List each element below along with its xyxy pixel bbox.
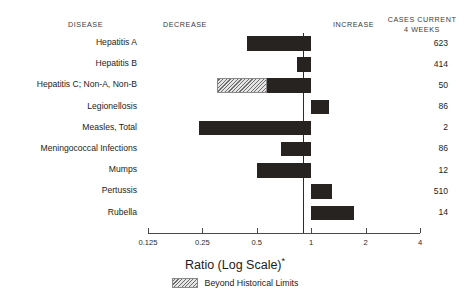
legend-hatch-label: Beyond Historical Limits: [205, 278, 299, 288]
chart-rows: Hepatitis A623Hepatitis B414Hepatitis C;…: [0, 33, 470, 224]
cases-current-4-weeks-value: 623: [378, 38, 448, 48]
x-axis-title-text: Ratio (Log Scale): [185, 258, 282, 272]
legend-hatch-swatch-icon: [172, 278, 198, 288]
cases-current-4-weeks-value: 510: [378, 186, 448, 196]
bar-segment-solid: [267, 78, 311, 93]
bar-segment-beyond-historical-limits: [217, 78, 267, 93]
bar-segment-solid: [247, 36, 311, 51]
bar-segment-solid: [311, 100, 329, 115]
x-axis-tick-label: 0.25: [195, 238, 210, 247]
x-axis-tick-label: 0.125: [138, 238, 157, 247]
cases-current-4-weeks-value: 14: [378, 207, 448, 217]
chart-row: Hepatitis C; Non-A, Non-B50: [0, 75, 470, 96]
x-axis-tick-label: 0.5: [252, 238, 263, 247]
cases-current-4-weeks-value: 12: [378, 165, 448, 175]
bar-segment-solid: [281, 142, 311, 157]
column-header-decrease: DECREASE: [163, 20, 207, 29]
column-header-cases-current-4-weeks: CASES CURRENT 4 WEEKS: [378, 15, 466, 34]
cases-current-4-weeks-value: 2: [378, 122, 448, 132]
x-axis-tick-label: 4: [418, 238, 422, 247]
x-axis-tick-label: 1: [309, 238, 313, 247]
bar-segment-solid: [311, 206, 354, 221]
x-axis-tick: [420, 228, 421, 233]
x-axis-title-footnote-marker: *: [282, 256, 286, 266]
chart-row: Hepatitis B414: [0, 54, 470, 75]
x-axis-tick: [366, 228, 367, 233]
bar-segment-solid: [297, 57, 312, 72]
x-axis-tick: [257, 228, 258, 233]
column-header-increase: INCREASE: [333, 20, 374, 29]
x-axis-tick: [311, 228, 312, 233]
x-axis-tick: [202, 228, 203, 233]
chart-row: Legionellosis86: [0, 97, 470, 118]
x-axis-tick-label: 2: [363, 238, 367, 247]
cases-current-4-weeks-value: 414: [378, 59, 448, 69]
notifiable-disease-ratio-chart: DISEASE DECREASE INCREASE CASES CURRENT …: [0, 0, 470, 303]
column-header-cases-line-1: CASES CURRENT: [388, 15, 457, 24]
chart-row: Pertussis510: [0, 181, 470, 202]
bar-segment-solid: [257, 163, 311, 178]
cases-current-4-weeks-value: 50: [378, 80, 448, 90]
chart-legend: Beyond Historical Limits: [0, 278, 470, 288]
chart-row: Measles, Total2: [0, 118, 470, 139]
chart-row: Meningococcal Infections86: [0, 139, 470, 160]
chart-row: Rubella14: [0, 203, 470, 224]
cases-current-4-weeks-value: 86: [378, 143, 448, 153]
chart-row: Hepatitis A623: [0, 33, 470, 54]
column-header-disease: DISEASE: [68, 20, 103, 29]
x-axis-line: [148, 233, 420, 234]
bar-segment-solid: [199, 121, 311, 136]
x-axis-title: Ratio (Log Scale)*: [0, 256, 470, 272]
x-axis-tick: [148, 228, 149, 233]
bar-segment-solid: [311, 184, 332, 199]
chart-row: Mumps12: [0, 160, 470, 181]
cases-current-4-weeks-value: 86: [378, 101, 448, 111]
